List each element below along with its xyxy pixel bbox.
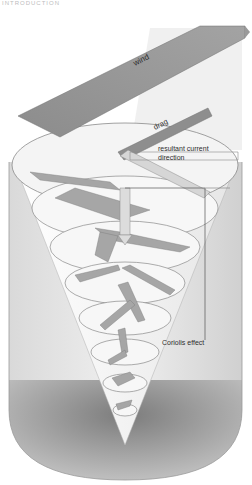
resultant-label-line2: direction [158, 154, 185, 161]
coriolis-label: Coriolis effect [162, 339, 204, 346]
resultant-indicator [118, 188, 132, 245]
resultant-label-line1: resultant current [158, 145, 209, 152]
ekman-spiral-diagram: wind drag resultant current direction Co… [0, 0, 252, 485]
